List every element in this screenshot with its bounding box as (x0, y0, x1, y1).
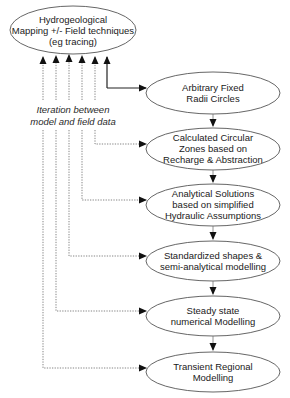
top-node-line-2: Mapping +/- Field techniques (12, 25, 134, 36)
node-4-line-2: semi-analytical modelling (160, 261, 266, 272)
dotted-iteration-lines (43, 55, 146, 368)
top-node-line-3: (eg tracing) (12, 36, 134, 47)
iteration-line-2: model and field data (30, 116, 116, 128)
iteration-label: Iteration between model and field data (28, 104, 118, 128)
node-1-line-2: Radii Circles (182, 93, 244, 104)
node-2-line-3: Recharge & Abstraction (163, 154, 263, 165)
node-4-label: Standardized shapes & semi-analytical mo… (160, 250, 266, 272)
top-node-line-1: Hydrogeological (12, 14, 134, 25)
node-4-line-1: Standardized shapes & (160, 250, 266, 261)
top-node-label: Hydrogeological Mapping +/- Field techni… (12, 14, 134, 47)
node-6-line-2: Modelling (173, 372, 252, 383)
node-2-label: Calculated Circular Zones based on Recha… (163, 132, 263, 165)
node-3-line-2: based on simplified (165, 199, 261, 210)
node-5-line-1: Steady state (171, 305, 255, 316)
node-3-label: Analytical Solutions based on simplified… (165, 188, 261, 221)
iteration-line-1: Iteration between (30, 104, 116, 116)
node-6-label: Transient Regional Modelling (173, 361, 252, 383)
node-5-label: Steady state numerical Modelling (171, 305, 255, 327)
node-1-line-1: Arbitrary Fixed (182, 82, 244, 93)
node-3-line-3: Hydraulic Assumptions (165, 210, 261, 221)
solid-link (107, 57, 146, 88)
node-3-line-1: Analytical Solutions (165, 188, 261, 199)
node-5-line-2: numerical Modelling (171, 316, 255, 327)
node-2-line-2: Zones based on (163, 143, 263, 154)
node-1-label: Arbitrary Fixed Radii Circles (182, 82, 244, 104)
node-2-line-1: Calculated Circular (163, 132, 263, 143)
node-6-line-1: Transient Regional (173, 361, 252, 372)
